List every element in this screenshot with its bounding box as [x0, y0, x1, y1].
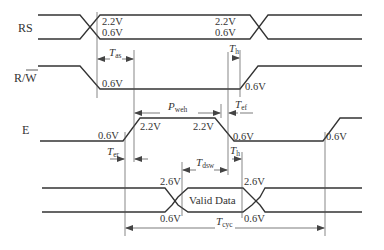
tcyc-label: Tcyc	[216, 215, 233, 229]
tas-label: Tas	[109, 46, 121, 60]
e-rise-high-voltage: 2.2V	[140, 121, 161, 132]
data-left-high-voltage: 2.6V	[160, 176, 181, 187]
ter-label: Ter	[107, 145, 119, 159]
data-left-low-voltage: 0.6V	[160, 213, 181, 224]
rs-left-high-voltage: 2.2V	[102, 16, 123, 27]
pweh-label: Pweh	[167, 100, 187, 114]
signal-label-e: E	[22, 123, 29, 137]
rs-left-low-voltage: 0.6V	[102, 27, 123, 38]
rs-waveform	[38, 15, 362, 39]
rs-right-high-voltage: 2.2V	[215, 16, 236, 27]
data-right-low-voltage: 0.6V	[244, 213, 265, 224]
timing-diagram: RS R/W E	[0, 0, 384, 250]
svg-text:R/W: R/W	[14, 71, 37, 85]
e-fall-low-voltage: 0.6V	[233, 131, 254, 142]
tdsw-label: Tdsw	[196, 156, 215, 170]
rs-right-low-voltage: 0.6V	[215, 27, 236, 38]
e-rise-low-voltage: 0.6V	[98, 130, 119, 141]
rw-rise-voltage: 0.6V	[245, 81, 266, 92]
rw-waveform	[38, 66, 362, 89]
th-bottom-label: Th	[230, 144, 240, 158]
signal-label-rw: R/W	[14, 70, 38, 85]
e-fall-high-voltage: 2.2V	[193, 121, 214, 132]
e-second-rise-voltage: 0.6V	[326, 131, 347, 142]
rw-fall-voltage: 0.6V	[102, 78, 123, 89]
signal-label-rs: RS	[18, 21, 33, 35]
tef-label: Tef	[235, 98, 247, 112]
th-top-label: Th	[229, 42, 239, 56]
valid-data-label: Valid Data	[189, 194, 236, 206]
data-right-high-voltage: 2.6V	[244, 176, 265, 187]
